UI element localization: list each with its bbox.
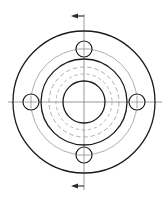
- bolt-hole-bottom: [76, 147, 92, 163]
- bolt-hole-left: [23, 94, 39, 110]
- flange-technical-drawing: [0, 0, 168, 199]
- bolt-hole-top: [76, 41, 92, 57]
- bolt-hole-right: [129, 94, 145, 110]
